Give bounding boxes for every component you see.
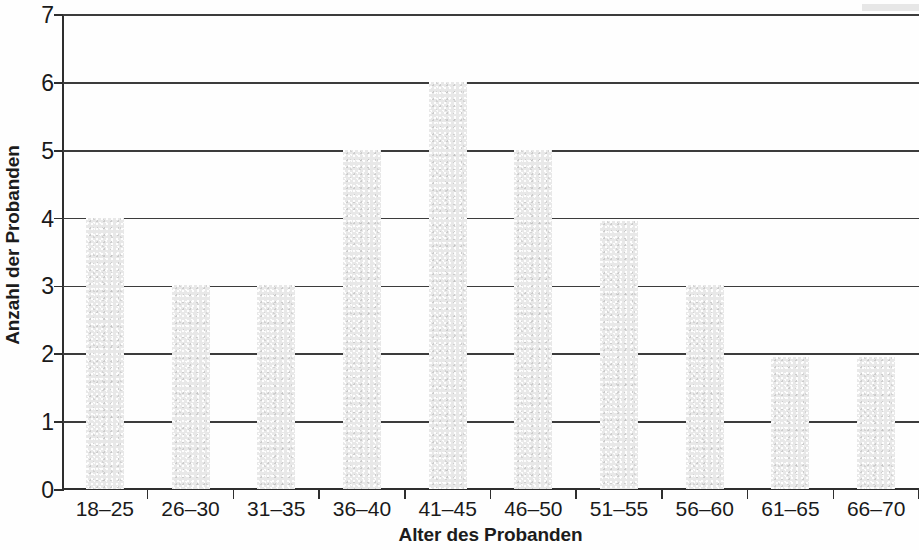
- y-tick-mark: [54, 353, 63, 355]
- y-tick-label: 1: [41, 411, 54, 434]
- gridline: [62, 82, 919, 84]
- bar: [343, 150, 381, 489]
- y-tick-label: 5: [41, 139, 54, 162]
- y-tick-label: 2: [41, 343, 54, 366]
- x-tick-label: 36–40: [333, 498, 391, 519]
- bar: [429, 82, 467, 489]
- gridline: [62, 14, 919, 16]
- x-tick-label: 56–60: [676, 498, 734, 519]
- gridline: [62, 150, 919, 152]
- y-tick-label: 6: [41, 71, 54, 94]
- y-tick-label: 3: [41, 275, 54, 298]
- x-tick-label: 61–65: [761, 498, 819, 519]
- x-axis-tick-labels: 18–2526–3031–3536–4041–4546–5051–5556–60…: [62, 492, 919, 526]
- y-tick-mark: [54, 218, 63, 220]
- y-tick-mark: [54, 421, 63, 423]
- x-axis-title: Alter des Probanden: [62, 524, 919, 546]
- y-tick-mark: [54, 82, 63, 84]
- bar: [686, 285, 724, 489]
- bar: [172, 285, 210, 489]
- y-axis-line: [62, 15, 64, 491]
- x-tick-label: 51–55: [590, 498, 648, 519]
- x-tick-label: 18–25: [76, 498, 134, 519]
- bar: [600, 221, 638, 489]
- bar: [857, 357, 895, 489]
- plot-area: [62, 15, 919, 490]
- bar-chart-figure: Anzahl der Probanden 01234567 18–2526–30…: [0, 0, 919, 550]
- x-tick-label: 66–70: [847, 498, 905, 519]
- y-tick-label: 7: [41, 4, 54, 27]
- x-tick-label: 31–35: [247, 498, 305, 519]
- y-tick-mark: [54, 14, 63, 16]
- x-tick-label: 41–45: [418, 498, 476, 519]
- x-tick-label: 26–30: [161, 498, 219, 519]
- y-tick-mark: [54, 489, 63, 491]
- bar: [86, 218, 124, 489]
- scan-artifact: [862, 4, 919, 11]
- bar: [257, 285, 295, 489]
- y-axis-title-text: Anzahl der Probanden: [2, 145, 24, 345]
- y-axis-title: Anzahl der Probanden: [0, 0, 26, 490]
- y-tick-label: 4: [41, 207, 54, 230]
- bar: [514, 150, 552, 489]
- bar: [771, 357, 809, 489]
- gridline: [62, 218, 919, 220]
- y-tick-mark: [54, 150, 63, 152]
- x-tick-label: 46–50: [504, 498, 562, 519]
- y-tick-mark: [54, 286, 63, 288]
- y-tick-label: 0: [41, 479, 54, 502]
